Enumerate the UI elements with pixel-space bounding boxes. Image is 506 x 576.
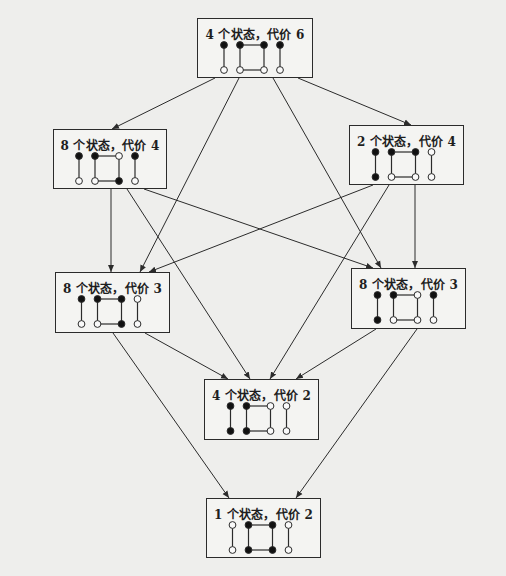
filled-vertex-icon: [430, 292, 437, 299]
filled-vertex-icon: [243, 428, 250, 435]
open-vertex-icon: [229, 547, 236, 554]
state-node-n4: 8 个状态，代价 3: [55, 272, 170, 333]
open-vertex-icon: [92, 178, 99, 185]
open-vertex-icon: [390, 317, 397, 324]
open-vertex-icon: [388, 174, 395, 181]
state-node-n6: 4 个状态，代价 2: [204, 379, 319, 440]
open-vertex-icon: [229, 522, 236, 529]
filled-vertex-icon: [227, 428, 234, 435]
filled-vertex-icon: [277, 42, 284, 49]
edge-arrow-n3-to-n4: [149, 185, 373, 272]
open-vertex-icon: [428, 174, 435, 181]
open-vertex-icon: [76, 178, 83, 185]
filled-vertex-icon: [245, 547, 252, 554]
filled-vertex-icon: [237, 42, 244, 49]
open-vertex-icon: [285, 547, 292, 554]
open-vertex-icon: [430, 317, 437, 324]
filled-vertex-icon: [372, 149, 379, 156]
open-vertex-icon: [267, 428, 274, 435]
open-vertex-icon: [283, 428, 290, 435]
open-vertex-icon: [116, 153, 123, 160]
state-node-n7: 1 个状态，代价 2: [206, 498, 321, 558]
filled-vertex-icon: [221, 42, 228, 49]
filled-vertex-icon: [78, 296, 85, 303]
filled-vertex-icon: [92, 153, 99, 160]
graph-glyph: [350, 126, 465, 186]
filled-vertex-icon: [245, 522, 252, 529]
open-vertex-icon: [221, 67, 228, 74]
graph-glyph: [207, 499, 322, 559]
graph-glyph: [198, 19, 314, 79]
open-vertex-icon: [414, 317, 421, 324]
filled-vertex-icon: [94, 296, 101, 303]
state-node-n3: 2 个状态，代价 4: [349, 125, 464, 185]
edge-arrow-n4-to-n6: [145, 333, 228, 379]
state-node-n2: 8 个状态，代价 4: [53, 129, 167, 189]
graph-glyph: [205, 380, 320, 441]
open-vertex-icon: [283, 403, 290, 410]
filled-vertex-icon: [118, 321, 125, 328]
edge-arrow-n1-to-n2: [112, 78, 215, 129]
filled-vertex-icon: [374, 317, 381, 324]
filled-vertex-icon: [269, 522, 276, 529]
open-vertex-icon: [285, 522, 292, 529]
open-vertex-icon: [428, 149, 435, 156]
open-vertex-icon: [134, 296, 141, 303]
state-node-n5: 8 个状态，代价 3: [351, 268, 466, 329]
filled-vertex-icon: [227, 403, 234, 410]
edge-arrow-n5-to-n6: [296, 329, 376, 379]
filled-vertex-icon: [116, 178, 123, 185]
filled-vertex-icon: [390, 292, 397, 299]
filled-vertex-icon: [388, 149, 395, 156]
filled-vertex-icon: [76, 153, 83, 160]
open-vertex-icon: [94, 321, 101, 328]
open-vertex-icon: [237, 67, 244, 74]
open-vertex-icon: [412, 174, 419, 181]
graph-glyph: [54, 130, 168, 190]
open-vertex-icon: [414, 292, 421, 299]
open-vertex-icon: [78, 321, 85, 328]
open-vertex-icon: [132, 178, 139, 185]
edge-arrow-n1-to-n3: [298, 78, 411, 125]
open-vertex-icon: [261, 67, 268, 74]
filled-vertex-icon: [132, 153, 139, 160]
edge-arrow-n2-to-n5: [144, 189, 373, 268]
state-lattice-diagram: 4 个状态，代价 6 8 个状态，代价 4 2 个状态，代价 4 8 个状态，代…: [0, 0, 506, 576]
graph-glyph: [352, 269, 467, 330]
open-vertex-icon: [267, 403, 274, 410]
graph-glyph: [56, 273, 171, 334]
filled-vertex-icon: [269, 547, 276, 554]
open-vertex-icon: [134, 321, 141, 328]
filled-vertex-icon: [372, 174, 379, 181]
filled-vertex-icon: [243, 403, 250, 410]
filled-vertex-icon: [261, 42, 268, 49]
filled-vertex-icon: [412, 149, 419, 156]
open-vertex-icon: [277, 67, 284, 74]
filled-vertex-icon: [374, 292, 381, 299]
filled-vertex-icon: [118, 296, 125, 303]
state-node-n1: 4 个状态，代价 6: [197, 18, 313, 78]
